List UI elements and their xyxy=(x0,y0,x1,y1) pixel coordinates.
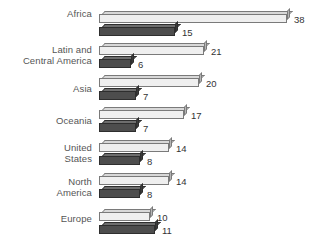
bar-light xyxy=(99,143,169,152)
bar-value-label: 8 xyxy=(147,157,152,166)
bar-end-cap xyxy=(155,219,158,231)
bar-value-label: 7 xyxy=(143,92,148,101)
category-label: Asia xyxy=(73,84,92,95)
category-label: Latin and Central America xyxy=(23,45,92,66)
bar-end-cap xyxy=(184,104,187,116)
bar-face xyxy=(99,78,199,87)
bar-light xyxy=(99,14,287,23)
bar-face xyxy=(99,143,169,152)
bar-light xyxy=(99,46,204,55)
bar-face xyxy=(99,225,155,234)
bar-dark xyxy=(99,27,175,36)
bar-light xyxy=(99,78,199,87)
bar-end-cap xyxy=(169,170,172,182)
bar-end-cap xyxy=(169,137,172,149)
bar-end-cap xyxy=(199,72,202,84)
horizontal-bar-chart: Africa3815Latin and Central America216As… xyxy=(0,0,318,250)
bar-dark xyxy=(99,91,136,100)
bar-value-label: 10 xyxy=(157,213,168,222)
bar-dark xyxy=(99,123,136,132)
category-label: North America xyxy=(56,177,92,198)
bar-value-label: 17 xyxy=(191,111,202,120)
bar-face xyxy=(99,123,136,132)
bar-end-cap xyxy=(131,53,134,65)
bar-face xyxy=(99,156,140,165)
bar-value-label: 14 xyxy=(176,144,187,153)
bar-face xyxy=(99,91,136,100)
bar-face xyxy=(99,59,131,68)
bar-end-cap xyxy=(150,206,153,218)
bar-value-label: 20 xyxy=(206,79,217,88)
bar-value-label: 14 xyxy=(176,177,187,186)
category-label: Oceania xyxy=(56,116,92,127)
bar-value-label: 6 xyxy=(138,60,143,69)
bar-light xyxy=(99,110,184,119)
bar-value-label: 8 xyxy=(147,190,152,199)
bar-value-label: 7 xyxy=(143,124,148,133)
bar-value-label: 21 xyxy=(211,47,222,56)
category-label: United States xyxy=(64,143,92,164)
bar-face xyxy=(99,176,169,185)
category-label: Europe xyxy=(61,214,92,225)
bar-value-label: 11 xyxy=(162,226,172,235)
bar-dark xyxy=(99,225,155,234)
bar-face xyxy=(99,212,150,221)
bar-value-label: 38 xyxy=(294,15,305,24)
bar-face xyxy=(99,14,287,23)
bar-light xyxy=(99,176,169,185)
bar-end-cap xyxy=(175,21,178,33)
bar-end-cap xyxy=(287,8,290,20)
bar-light xyxy=(99,212,150,221)
bar-face xyxy=(99,46,204,55)
bar-end-cap xyxy=(136,117,139,129)
bar-end-cap xyxy=(140,150,143,162)
bar-end-cap xyxy=(204,40,207,52)
bar-face xyxy=(99,189,140,198)
category-label: Africa xyxy=(67,9,92,20)
bar-dark xyxy=(99,156,140,165)
bar-face xyxy=(99,110,184,119)
bar-dark xyxy=(99,59,131,68)
bar-end-cap xyxy=(140,183,143,195)
bar-value-label: 15 xyxy=(182,28,193,37)
bar-dark xyxy=(99,189,140,198)
bar-end-cap xyxy=(136,85,139,97)
bar-face xyxy=(99,27,175,36)
